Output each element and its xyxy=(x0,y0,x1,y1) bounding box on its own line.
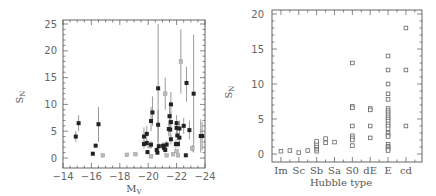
data-point-open xyxy=(324,141,328,145)
data-point-filled xyxy=(175,121,179,125)
category-label: Sc xyxy=(293,165,306,176)
data-point-open xyxy=(404,26,408,30)
data-point-open xyxy=(306,149,310,153)
data-point-open xyxy=(386,135,390,139)
data-point-filled xyxy=(169,137,173,141)
data-point-open xyxy=(125,153,129,157)
data-point-open xyxy=(351,106,355,110)
data-point-open xyxy=(134,152,138,156)
data-point-open xyxy=(386,98,390,102)
data-point-filled xyxy=(182,124,186,128)
data-point-filled xyxy=(74,135,78,139)
data-point-open xyxy=(288,149,292,153)
data-point-filled xyxy=(145,132,149,136)
data-point-filled xyxy=(149,143,153,147)
data-point-open xyxy=(368,108,372,112)
x-tick-label: −18 xyxy=(109,171,130,182)
data-point-open xyxy=(386,92,390,96)
data-point-open xyxy=(351,61,355,65)
data-point-open xyxy=(351,144,355,148)
data-point-open xyxy=(386,149,390,153)
data-point-filled xyxy=(169,120,173,124)
data-point-open xyxy=(386,54,390,58)
x-tick-label: −24 xyxy=(194,171,215,182)
x-tick-label: −20 xyxy=(138,171,159,182)
data-point-open xyxy=(163,92,167,96)
plot-frame xyxy=(272,10,422,162)
figure: −14−16−18−20−22−240510152025SNMV ImScSbS… xyxy=(0,0,436,195)
data-point-open xyxy=(324,137,328,141)
category-label: cd xyxy=(400,165,413,176)
category-label: E xyxy=(384,165,391,176)
category-label: Sa xyxy=(328,165,341,176)
y-axis-label: SN xyxy=(14,91,27,104)
data-point-open xyxy=(297,151,301,155)
data-point-filled xyxy=(168,128,172,132)
data-point-open xyxy=(386,127,390,131)
data-point-filled xyxy=(177,136,181,140)
data-point-filled xyxy=(168,114,172,118)
y-tick-label: 10 xyxy=(44,99,57,110)
x-tick-label: −16 xyxy=(81,171,102,182)
data-point-open xyxy=(279,149,283,153)
data-point-filled xyxy=(97,122,101,126)
category-label: Im xyxy=(274,165,288,176)
y-tick-label: 0 xyxy=(51,153,57,164)
plot-frame xyxy=(63,20,205,168)
data-point-open xyxy=(179,60,183,64)
y-tick-label: 20 xyxy=(44,45,57,56)
data-point-filled xyxy=(187,128,191,132)
data-point-open xyxy=(404,68,408,72)
data-point-open xyxy=(165,154,169,158)
data-point-open xyxy=(101,154,105,158)
data-point-open xyxy=(386,68,390,72)
data-point-filled xyxy=(156,86,160,90)
data-point-filled xyxy=(145,150,149,154)
y-tick-label: 20 xyxy=(251,9,264,20)
data-point-open xyxy=(386,82,390,86)
y-tick-label: 5 xyxy=(258,114,264,125)
y-axis-label: SN xyxy=(223,86,236,99)
data-point-open xyxy=(404,124,408,128)
data-point-open xyxy=(368,136,372,140)
y-tick-label: 15 xyxy=(44,72,57,83)
category-label: dE xyxy=(363,165,377,176)
x-axis-label: MV xyxy=(126,183,142,195)
data-point-open xyxy=(315,140,319,144)
data-point-filled xyxy=(169,102,173,106)
data-point-open xyxy=(171,152,175,156)
data-point-filled xyxy=(177,127,181,131)
data-point-open xyxy=(333,140,337,144)
left-plot-mv-vs-sn: −14−16−18−20−22−240510152025SNMV xyxy=(14,19,216,196)
data-point-filled xyxy=(192,92,196,96)
y-tick-label: 5 xyxy=(51,126,57,137)
data-point-open xyxy=(149,155,153,159)
data-point-filled xyxy=(150,110,154,114)
category-label: Sb xyxy=(310,165,323,176)
data-point-filled xyxy=(145,141,149,145)
data-point-filled xyxy=(176,142,180,146)
y-tick-label: 10 xyxy=(251,79,264,90)
data-point-filled xyxy=(157,144,161,148)
data-point-filled xyxy=(185,81,189,85)
data-point-filled xyxy=(163,148,167,152)
data-point-filled xyxy=(156,123,160,127)
x-axis-label: Hubble type xyxy=(310,177,372,188)
x-tick-label: −14 xyxy=(52,171,73,182)
data-point-open xyxy=(190,147,194,151)
y-tick-label: 0 xyxy=(258,149,264,160)
data-point-open xyxy=(351,138,355,142)
data-point-filled xyxy=(200,134,204,138)
category-label: S0 xyxy=(346,165,359,176)
data-point-open xyxy=(175,149,179,153)
data-point-filled xyxy=(77,121,81,125)
data-point-filled xyxy=(184,153,188,157)
data-point-open xyxy=(351,124,355,128)
data-point-open xyxy=(176,154,180,158)
y-tick-label: 25 xyxy=(44,19,57,30)
data-point-filled xyxy=(155,151,159,155)
data-point-filled xyxy=(91,152,95,156)
data-point-filled xyxy=(149,119,153,123)
data-point-open xyxy=(368,124,372,128)
data-point-filled xyxy=(165,143,169,147)
